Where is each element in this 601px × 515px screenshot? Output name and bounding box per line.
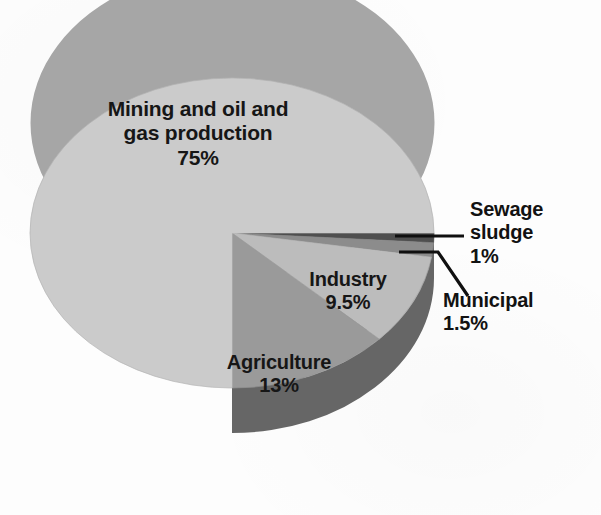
- slice-label-industry: Industry 9.5%: [286, 268, 410, 314]
- pie-chart-page: gniklat ehT sdnasrat eht fo noitcudorp s…: [0, 0, 601, 515]
- slice-label-agriculture: Agriculture 13%: [196, 351, 362, 397]
- pie-chart-figure: Mining and oil and gas production 75% In…: [0, 0, 601, 515]
- slice-label-mining: Mining and oil and gas production 75%: [88, 97, 308, 170]
- slice-label-sewage-sludge: Sewage sludge 1%: [470, 198, 600, 268]
- slice-label-municipal: Municipal 1.5%: [443, 289, 593, 336]
